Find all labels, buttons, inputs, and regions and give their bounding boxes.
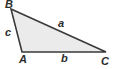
side-label-c: c: [5, 27, 11, 38]
side-label-a: a: [58, 18, 64, 29]
triangle-diagram: B A C a b c: [0, 0, 113, 69]
vertex-label-c: C: [101, 56, 109, 67]
side-label-b: b: [61, 53, 68, 64]
triangle-shape: [11, 9, 106, 52]
triangle-canvas: [0, 0, 113, 69]
vertex-label-a: A: [19, 54, 27, 65]
vertex-label-b: B: [5, 0, 13, 10]
